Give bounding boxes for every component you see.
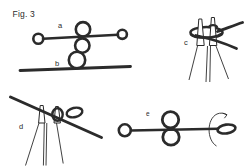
- subfigure-a: [33, 22, 127, 53]
- left-peg: [197, 19, 204, 46]
- left-peg: [39, 106, 45, 124]
- peg-leg: [206, 46, 208, 82]
- subfigure-c: [189, 18, 243, 83]
- peg-leg: [46, 123, 47, 166]
- figure-3-drawing: Fig. 3 a b c d e: [0, 0, 244, 166]
- subfigure-e: [119, 112, 236, 146]
- subfigure-b-label: b: [55, 59, 59, 68]
- peg-leg: [216, 46, 229, 79]
- peg-leg: [210, 46, 211, 82]
- left-eye-loop: [119, 124, 131, 136]
- peg-leg: [26, 123, 40, 166]
- subfigure-d: [11, 97, 102, 166]
- cord-end-upper: [218, 23, 243, 32]
- single-loop: [69, 52, 85, 68]
- subfigure-a-label: a: [58, 21, 63, 30]
- centre-loop-top: [162, 112, 178, 128]
- subfigure-c-label: c: [184, 38, 188, 47]
- diagonal-rod: [11, 97, 102, 138]
- centre-loop-top: [76, 22, 90, 36]
- flattened-end-loop: [217, 123, 236, 134]
- peg-leg: [57, 123, 64, 164]
- peg-leg: [43, 123, 44, 166]
- peg-leg: [189, 46, 198, 80]
- subfigure-d-label: d: [19, 122, 23, 131]
- twist-loop: [66, 106, 84, 119]
- drawing-strokes: [11, 18, 243, 166]
- subfigure-e-label: e: [146, 110, 150, 117]
- figure-3-illustration: Fig. 3 a b c d e: [0, 0, 244, 166]
- subfigure-b: [20, 52, 131, 71]
- figure-label: Fig. 3: [13, 9, 36, 19]
- centre-loop-bottom: [163, 129, 179, 145]
